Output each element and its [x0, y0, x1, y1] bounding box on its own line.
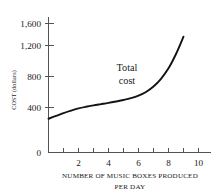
y-tick-label-1600: 1,600	[20, 19, 41, 29]
x-tick-label-4: 4	[106, 158, 111, 168]
y-tick-label-1200: 1,200	[20, 41, 41, 51]
y-tick-label-400: 400	[27, 103, 41, 113]
y-axis-title: COST (dollars)	[10, 70, 18, 110]
y-tick-label-800: 800	[27, 72, 41, 82]
x-tick-label-10: 10	[194, 158, 204, 168]
x-axis-title-line1: NUMBER OF MUSIC BOXES PRODUCED	[62, 172, 198, 180]
total-cost-annotation-line1: Total	[117, 62, 138, 73]
x-axis-ticks	[64, 148, 199, 153]
chart-plot-area: 0 400 800 1,200 1,600 2 4 6 8 10 NUMBER …	[0, 0, 218, 194]
x-axis-title-line2: PER DAY	[115, 183, 146, 191]
x-tick-label-8: 8	[166, 158, 171, 168]
cost-curve-chart: 0 400 800 1,200 1,600 2 4 6 8 10 NUMBER …	[0, 0, 218, 194]
y-axis-ticks	[45, 24, 54, 153]
total-cost-curve	[49, 37, 184, 119]
x-tick-label-2: 2	[76, 158, 81, 168]
total-cost-annotation-line2: cost	[119, 75, 136, 86]
x-tick-label-6: 6	[136, 158, 141, 168]
y-tick-label-0: 0	[36, 148, 41, 158]
